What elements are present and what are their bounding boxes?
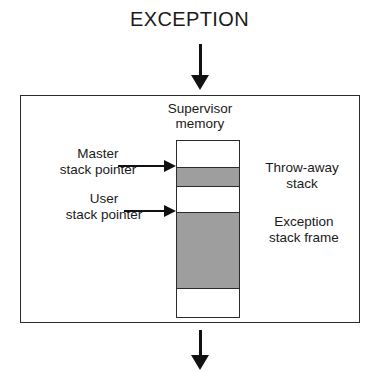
band-free-top: [177, 141, 239, 167]
supervisor-memory-label-line2: memory: [140, 116, 260, 131]
supervisor-memory-label-line1: Supervisor: [140, 101, 260, 116]
arrow-head: [191, 75, 209, 90]
band-gap: [177, 187, 239, 212]
supervisor-memory-label: Supervisor memory: [140, 101, 260, 131]
band-free-bottom: [177, 289, 239, 319]
memory-column: [176, 140, 240, 318]
arrow-shaft: [199, 44, 202, 76]
exception-stack-frame-label-line2: stack frame: [248, 230, 360, 246]
exception-stack-diagram: EXCEPTION Supervisor memory Master stack…: [0, 0, 379, 373]
arrow-head: [164, 160, 176, 172]
throw-away-stack-label-line1: Throw-away: [248, 160, 356, 176]
exception-entry-arrow-icon: [192, 44, 208, 90]
arrow-head: [191, 355, 209, 370]
throw-away-stack-label: Throw-away stack: [248, 160, 356, 191]
arrow-head: [164, 205, 176, 217]
band-exception-stack-frame: [177, 212, 239, 289]
exception-exit-arrow-icon: [192, 330, 208, 370]
arrow-shaft: [199, 330, 202, 356]
master-stack-pointer-arrow-icon: [118, 160, 176, 172]
exception-stack-frame-label: Exception stack frame: [248, 214, 360, 245]
user-stack-pointer-arrow-icon: [124, 205, 176, 217]
band-throw-away-stack: [177, 167, 239, 187]
throw-away-stack-label-line2: stack: [248, 176, 356, 192]
exception-stack-frame-label-line1: Exception: [248, 214, 360, 230]
page-title: EXCEPTION: [0, 8, 379, 31]
arrow-shaft: [124, 210, 166, 212]
arrow-shaft: [118, 165, 166, 167]
